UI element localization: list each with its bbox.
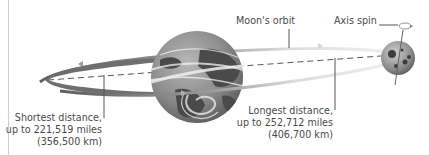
shortest-distance-line2: up to 221,519 miles [6,124,102,136]
shortest-distance-line3: (356,500 km) [6,136,102,148]
longest-distance-line2: up to 252,712 miles [237,117,333,129]
axis-spin-icon [399,23,411,29]
longest-distance-line3: (406,700 km) [237,129,333,141]
longest-distance-label: Longest distance, up to 252,712 miles (4… [237,105,333,141]
longest-distance-line1: Longest distance, [237,105,333,117]
axis-spin-label: Axis spin [334,15,377,27]
moon-orbit-label: Moon's orbit [236,15,295,27]
moon [381,23,415,85]
moon-orbit-diagram: Moon's orbit Axis spin Shortest distance… [0,0,429,155]
earth-globe [150,31,250,123]
shortest-distance-line1: Shortest distance, [6,112,102,124]
shortest-distance-label: Shortest distance, up to 221,519 miles (… [6,112,102,148]
orbit-arrow-icon [78,61,83,67]
